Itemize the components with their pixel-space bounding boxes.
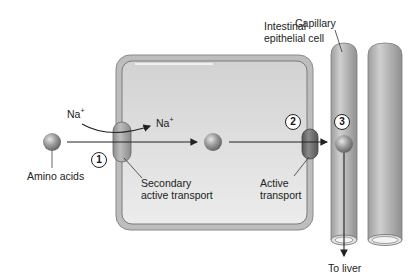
na-inside-text: Na: [156, 117, 169, 129]
cell-label-line2: epithelial cell: [264, 32, 324, 44]
na-inside-charge: +: [169, 116, 173, 123]
na-inside-label: Na+: [156, 114, 174, 129]
capillary-label: Capillary: [295, 17, 336, 29]
na-outside-charge: +: [80, 107, 84, 114]
amino-acid-in-cell: [204, 133, 222, 151]
amino-acid-in-blood: [335, 135, 353, 153]
na-outside-text: Na: [67, 108, 80, 120]
step-3-badge: 3: [334, 114, 350, 130]
secondary-label-line1: Secondary: [141, 177, 213, 189]
amino-acid-outside: [43, 133, 61, 151]
active-label-line2: transport: [260, 189, 301, 201]
na-outside-label: Na+: [67, 105, 85, 120]
step-2-badge: 2: [285, 114, 301, 130]
to-liver-label: To liver: [328, 262, 361, 274]
diagram-canvas: [0, 0, 418, 278]
capillary-right: [368, 43, 402, 246]
active-label-line1: Active: [260, 177, 301, 189]
active-transporter: [302, 129, 318, 159]
active-transport-label: Active transport: [260, 177, 301, 201]
secondary-label-line2: active transport: [141, 189, 213, 201]
secondary-transport-label: Secondary active transport: [141, 177, 213, 201]
step-1-badge: 1: [91, 152, 107, 168]
amino-acids-label: Amino acids: [27, 170, 84, 182]
